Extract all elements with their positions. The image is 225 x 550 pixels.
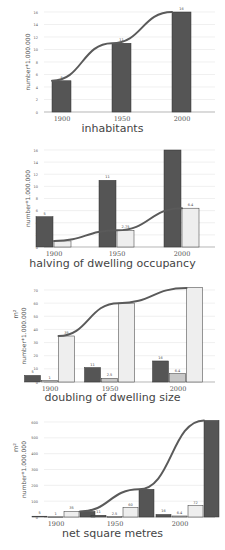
bar	[187, 287, 203, 382]
bar-value-label: 72	[193, 501, 197, 505]
y-tick-label: 14	[34, 161, 39, 165]
bar	[102, 378, 118, 382]
y-axis-label: number*1.000.000	[24, 33, 31, 90]
y-tick-label: 200	[31, 484, 38, 488]
y-tick-label: 4	[36, 86, 39, 90]
bar	[36, 217, 53, 247]
chart-plot: 0100200300400500600number*1.000.000m²513…	[0, 410, 225, 528]
bar-value-label: 16	[158, 356, 162, 360]
bar	[164, 150, 181, 247]
bar	[59, 336, 75, 382]
y-tick-label: 2	[36, 98, 38, 102]
y-tick-label: 16	[34, 11, 38, 15]
y-tick-label: 70	[34, 289, 38, 293]
bar	[25, 375, 41, 382]
y-tick-label: 6	[36, 209, 38, 213]
bar	[172, 12, 191, 112]
y-axis-label: number*1.000.000	[20, 307, 27, 364]
bar	[139, 489, 154, 517]
bar-value-label: 35	[69, 506, 73, 510]
y-tick-label: 600	[31, 421, 38, 425]
bar	[112, 43, 131, 112]
bar	[99, 180, 116, 247]
bar-value-label: 2.5	[112, 512, 118, 516]
bar-value-label: 2.5	[107, 373, 113, 377]
chart-halving-occupancy: 0246810121416number*1.000.00051900112.75…	[0, 140, 225, 275]
chart-inhabitants: 0246810121416number*1.000.00051900111950…	[0, 0, 225, 140]
bar	[48, 517, 63, 518]
bar	[52, 81, 71, 112]
chart-plot: 0246810121416number*1.000.00051900111950…	[0, 0, 225, 124]
bar	[156, 514, 171, 517]
bar	[170, 374, 186, 382]
bar	[119, 303, 135, 382]
bar	[123, 508, 138, 518]
bar-value-label: 5	[31, 370, 33, 374]
bar-value-label: 5	[43, 212, 45, 216]
bar-value-label: 6.4	[177, 511, 183, 515]
y-tick-label: 40	[34, 328, 38, 332]
y-tick-label: 60	[34, 302, 38, 306]
bar-value-label: 11	[96, 510, 100, 514]
y-tick-label: 10	[34, 367, 38, 371]
bar	[153, 361, 169, 382]
y-tick-label: 16	[34, 149, 38, 153]
bar-value-label: 11	[105, 175, 109, 179]
bar	[182, 208, 199, 247]
bar-value-label: 1	[48, 376, 50, 380]
y-axis-unit: m²	[12, 443, 20, 452]
y-tick-label: 300	[31, 468, 38, 472]
y-tick-label: 12	[34, 173, 38, 177]
y-tick-label: 20	[34, 354, 38, 358]
bar	[42, 381, 58, 382]
bar-value-label: 16	[179, 7, 183, 11]
chart-plot: 010203040506070number*1.000.000m²5135190…	[0, 280, 225, 392]
y-tick-label: 8	[36, 61, 38, 65]
y-tick-label: 6	[36, 73, 38, 77]
bar-value-label: 11	[90, 363, 94, 367]
y-tick-label: 10	[34, 185, 38, 189]
y-tick-label: 400	[31, 452, 38, 456]
chart-title: doubling of dwelling size	[0, 391, 225, 404]
y-tick-label: 12	[34, 36, 38, 40]
bar-value-label: 6.4	[188, 203, 194, 207]
bar	[107, 517, 122, 518]
bar	[91, 515, 106, 517]
chart-title: net square metres	[0, 527, 225, 540]
bar	[32, 516, 47, 517]
bar	[64, 511, 79, 517]
bar-value-label: 60	[128, 503, 132, 507]
y-tick-label: 50	[34, 315, 38, 319]
y-axis-unit: m²	[12, 309, 20, 318]
y-axis-label: number*1.000.000	[24, 170, 31, 227]
y-axis-label: number*1.000.000	[20, 441, 27, 498]
chart-net-square-metres: 0100200300400500600number*1.000.000m²513…	[0, 410, 225, 550]
bar	[117, 230, 134, 247]
y-tick-label: 10	[34, 48, 38, 52]
bar	[204, 420, 219, 517]
bar	[172, 516, 187, 517]
y-tick-label: 30	[34, 341, 38, 345]
bar-value-label: 16	[161, 509, 165, 513]
bar-value-label: 1	[54, 512, 56, 516]
chart-title: halving of dwelling occupancy	[0, 257, 225, 270]
y-tick-label: 8	[36, 197, 38, 201]
bar-value-label: 5	[38, 511, 40, 515]
y-tick-label: 100	[31, 500, 38, 504]
y-tick-label: 14	[34, 23, 39, 27]
y-tick-label: 500	[31, 436, 38, 440]
y-tick-label: 0	[36, 111, 38, 115]
chart-plot: 0246810121416number*1.000.00051900112.75…	[0, 140, 225, 258]
bar	[188, 506, 203, 517]
chart-title: inhabitants	[0, 122, 225, 135]
bar-value-label: 6.4	[175, 369, 181, 373]
bar	[85, 368, 101, 382]
chart-doubling-size: 010203040506070number*1.000.000m²5135190…	[0, 280, 225, 410]
